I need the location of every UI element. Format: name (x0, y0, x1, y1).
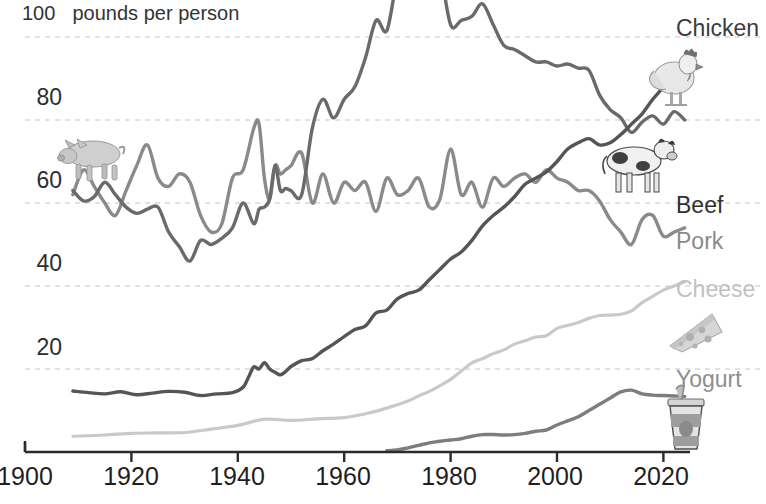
pig-illustration (57, 132, 129, 184)
axis-lines (25, 441, 690, 462)
series-label-chicken: Chicken (676, 15, 759, 42)
consumption-line-chart: 100 pounds per person 80 60 40 20 1900 1… (0, 0, 766, 504)
series-lines (73, 0, 685, 451)
series-line-beef (73, 0, 685, 261)
cheese-wedge-illustration (664, 306, 728, 356)
series-line-cheese (73, 282, 685, 436)
series-label-beef: Beef (676, 192, 723, 219)
series-line-yogurt (387, 390, 685, 451)
series-label-pork: Pork (676, 228, 723, 255)
series-line-chicken (73, 60, 685, 396)
cow-illustration (596, 136, 680, 198)
chicken-illustration (646, 45, 708, 111)
yogurt-cup-illustration (660, 381, 712, 453)
series-label-cheese: Cheese (676, 276, 755, 303)
